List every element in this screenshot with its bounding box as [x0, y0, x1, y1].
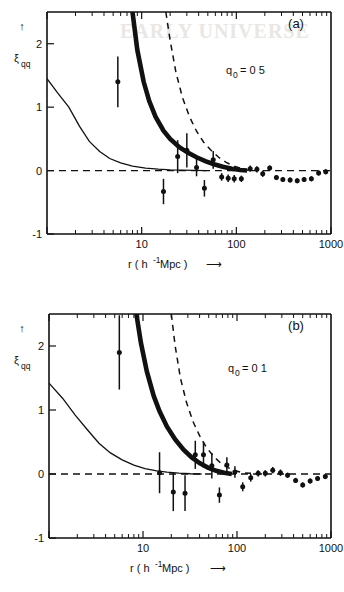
- data-marker: [193, 452, 198, 457]
- data-point-b: [157, 452, 162, 493]
- x-axis-label-a: r ( h -1 Mpc ) ⟶: [128, 255, 222, 270]
- y-axis-label-a: ↑ ξ qq: [14, 20, 31, 69]
- data-point-a: [267, 165, 272, 170]
- data-marker: [115, 79, 120, 84]
- data-marker: [211, 157, 216, 162]
- data-marker: [232, 470, 237, 475]
- y-axis-label-sub-b: qq: [21, 361, 31, 371]
- data-point-b: [183, 475, 188, 511]
- data-point-b: [293, 478, 298, 483]
- data-marker: [157, 470, 162, 475]
- plot-area-b: [49, 314, 331, 511]
- annotation-q0-a-sub: 0: [233, 70, 238, 80]
- x-tick-label-a: 100: [227, 238, 245, 250]
- data-point-a: [219, 173, 224, 181]
- annotation-q0-b-sub: 0: [235, 368, 240, 378]
- annotation-q0-b-value: = 0 1: [242, 362, 267, 374]
- data-point-a: [115, 56, 120, 107]
- data-point-a: [239, 176, 244, 182]
- annotation-q0-a-value: = 0 5: [240, 64, 265, 76]
- x-tick-label-b: 1000: [319, 542, 343, 554]
- y-axis-label-b: ↑ ξ qq: [14, 322, 31, 371]
- data-marker: [183, 491, 188, 496]
- data-marker: [260, 171, 265, 176]
- data-marker: [201, 452, 206, 457]
- annotation-q0-b: q 0 = 0 1: [228, 362, 267, 378]
- data-marker: [316, 171, 321, 176]
- data-point-a: [309, 176, 314, 181]
- chart-panel-b: 101001000210-1 (b) q 0 = 0 1 ↑ ξ qq r ( …: [0, 300, 344, 592]
- data-marker: [240, 484, 245, 489]
- data-marker: [117, 350, 122, 355]
- data-marker: [184, 148, 189, 153]
- figure-container: EARLY UNIVERSE 101001000210-1 (a) q 0 = …: [0, 0, 344, 592]
- y-tick-label-b: 0: [38, 468, 44, 480]
- data-marker: [323, 474, 328, 479]
- data-point-a: [316, 171, 321, 176]
- data-point-b: [193, 441, 198, 469]
- y-axis-label-base-a: ξ: [14, 52, 19, 64]
- x-tick-label-a: 1000: [319, 238, 343, 250]
- data-marker: [217, 493, 222, 498]
- data-point-b: [300, 482, 305, 487]
- data-point-b: [308, 478, 313, 483]
- data-marker: [256, 471, 261, 476]
- annotation-q0-b-base: q: [228, 362, 234, 374]
- data-marker: [239, 176, 244, 181]
- data-point-a: [184, 133, 189, 167]
- data-marker: [202, 186, 207, 191]
- x-axis-arrow-icon-a: ⟶: [206, 258, 222, 270]
- data-point-a: [194, 159, 199, 177]
- data-marker: [226, 176, 231, 181]
- data-point-b: [171, 473, 176, 511]
- y-axis-arrow-icon-b: ↑: [19, 322, 25, 334]
- data-marker: [285, 473, 290, 478]
- data-marker: [194, 165, 199, 170]
- data-marker: [295, 178, 300, 183]
- y-tick-label-a: -1: [32, 228, 42, 240]
- data-marker: [224, 463, 229, 468]
- data-marker: [175, 154, 180, 159]
- data-point-b: [217, 487, 222, 502]
- data-point-a: [226, 174, 231, 182]
- x-axis-label-b: r ( h -1 Mpc ) ⟶: [130, 559, 226, 574]
- curve-galaxy-correlation-thin-b: [49, 383, 202, 474]
- data-marker: [274, 175, 279, 180]
- data-marker: [309, 176, 314, 181]
- data-point-b: [315, 476, 320, 481]
- data-marker: [315, 476, 320, 481]
- data-marker: [263, 471, 268, 476]
- chart-panel-a: EARLY UNIVERSE 101001000210-1 (a) q 0 = …: [0, 0, 344, 292]
- y-tick-label-a: 0: [36, 165, 42, 177]
- data-point-b: [256, 470, 261, 476]
- panel-a-svg: EARLY UNIVERSE 101001000210-1 (a) q 0 = …: [0, 0, 344, 292]
- data-point-b: [278, 470, 283, 476]
- data-point-a: [232, 175, 237, 183]
- x-axis-label-tail-b: Mpc ): [162, 562, 190, 574]
- data-point-a: [280, 177, 285, 182]
- y-tick-label-b: 2: [38, 340, 44, 352]
- x-tick-label-b: 100: [228, 542, 246, 554]
- curve-galaxy-correlation-thin-a: [47, 79, 206, 171]
- x-axis-label-tail-a: Mpc ): [160, 258, 188, 270]
- data-marker: [254, 167, 259, 172]
- data-point-b: [248, 474, 253, 482]
- data-marker: [171, 489, 176, 494]
- annotation-q0-a: q 0 = 0 5: [226, 64, 265, 80]
- y-tick-label-a: 1: [36, 101, 42, 113]
- y-axis-label-base-b: ξ: [14, 354, 19, 366]
- data-marker: [302, 177, 307, 182]
- data-marker: [280, 177, 285, 182]
- x-axis-label-main-b: r ( h: [130, 562, 150, 574]
- panel-label-a: (a): [288, 16, 304, 31]
- data-point-a: [302, 177, 307, 182]
- data-marker: [232, 176, 237, 181]
- panel-label-b: (b): [288, 318, 304, 333]
- data-marker: [161, 189, 166, 194]
- bleed-through-text: EARLY UNIVERSE: [120, 20, 310, 42]
- y-tick-label-b: 1: [38, 404, 44, 416]
- panel-b-svg: 101001000210-1 (b) q 0 = 0 1 ↑ ξ qq r ( …: [0, 300, 344, 592]
- y-axis-arrow-icon-a: ↑: [19, 20, 25, 32]
- y-tick-label-a: 2: [36, 38, 42, 50]
- data-point-b: [240, 482, 245, 491]
